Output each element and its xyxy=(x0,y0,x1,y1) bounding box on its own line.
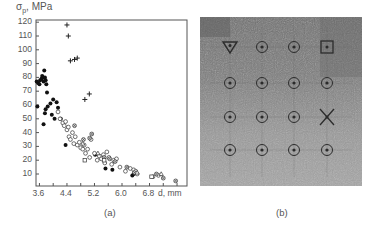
data-point-crossed-circle xyxy=(73,124,77,128)
data-point-open-circle xyxy=(69,138,73,142)
y-tick-label: 110 xyxy=(18,30,32,40)
data-point-open-circle xyxy=(56,110,60,114)
data-point-crossed-circle xyxy=(108,157,112,161)
y-tick-label: 70 xyxy=(23,85,32,95)
x-tick-label: 6.8 xyxy=(143,188,155,198)
x-tick-label: 4.4 xyxy=(60,188,72,198)
data-point-open-circle xyxy=(105,150,109,154)
data-point-filled-circle xyxy=(44,82,48,86)
data-point-square xyxy=(83,158,87,162)
data-point-filled-circle xyxy=(51,97,55,101)
data-point-crossed-circle xyxy=(125,165,129,169)
x-tick-label: 5.2 xyxy=(87,188,99,198)
data-point-cross xyxy=(82,97,87,102)
data-point-crossed-circle xyxy=(90,132,94,136)
y-tick-label: 50 xyxy=(23,113,32,123)
x-tick-label: 3.6 xyxy=(32,188,44,198)
data-point-filled-circle xyxy=(56,106,60,110)
figure: σp, MPa 102030405060708090100110120 3.64… xyxy=(0,0,380,226)
data-point-open-circle xyxy=(77,140,81,144)
x-tick-label: 6.0 xyxy=(115,188,127,198)
data-points xyxy=(35,22,178,182)
data-point-open-circle xyxy=(71,131,75,135)
data-point-open-circle xyxy=(84,151,88,155)
y-tick-label: 10 xyxy=(23,168,32,178)
data-point-filled-circle xyxy=(48,102,52,106)
specimen-photo xyxy=(200,17,362,186)
data-point-open-circle xyxy=(62,124,66,128)
data-point-filled-circle xyxy=(42,69,46,73)
plot-frame xyxy=(36,20,187,186)
data-point-filled-circle xyxy=(103,166,107,170)
data-point-crossed-circle xyxy=(155,172,159,176)
data-point-crossed-circle xyxy=(82,138,86,142)
data-point-open-circle xyxy=(124,169,128,173)
y-tick-label: 90 xyxy=(23,58,32,68)
y-tick-label: 30 xyxy=(23,140,32,150)
data-point-square xyxy=(150,175,154,179)
data-point-open-circle xyxy=(81,147,85,151)
data-point-open-circle xyxy=(64,120,68,124)
data-point-open-circle xyxy=(66,125,70,129)
data-point-crossed-circle xyxy=(174,179,178,183)
y-tick-label: 60 xyxy=(23,99,32,109)
y-tick-label: 40 xyxy=(23,127,32,137)
data-point-open-circle xyxy=(88,156,92,160)
data-point-open-circle xyxy=(58,117,62,121)
panel-a-label: (a) xyxy=(104,207,116,218)
data-point-filled-circle xyxy=(42,122,46,126)
x-axis-label: d, mm xyxy=(158,188,182,198)
data-point-filled-circle xyxy=(35,104,39,108)
data-point-filled-circle xyxy=(44,78,48,82)
y-tick-label: 100 xyxy=(18,44,32,54)
y-tick-label: 20 xyxy=(23,154,32,164)
data-point-filled-circle xyxy=(45,91,49,95)
data-point-cross xyxy=(87,91,92,96)
data-point-open-circle xyxy=(118,165,122,169)
data-point-filled-circle xyxy=(64,143,68,147)
y-tick-label: 120 xyxy=(18,16,32,26)
data-point-filled-circle xyxy=(53,117,57,121)
data-point-open-circle xyxy=(110,162,114,166)
data-point-filled-circle xyxy=(50,113,54,117)
data-point-filled-circle xyxy=(55,100,59,104)
data-point-filled-circle xyxy=(37,82,41,86)
data-point-crossed-circle xyxy=(161,176,165,180)
data-point-open-circle xyxy=(86,147,90,151)
panel-b-label: (b) xyxy=(276,207,288,218)
data-point-open-circle xyxy=(73,135,77,139)
data-point-square xyxy=(102,158,106,162)
data-point-filled-circle xyxy=(43,111,47,115)
data-point-cross xyxy=(66,34,71,39)
data-point-open-circle xyxy=(95,158,99,162)
y-tick-label: 80 xyxy=(23,71,32,81)
data-point-crossed-circle xyxy=(113,160,117,164)
data-point-crossed-circle xyxy=(88,136,92,140)
data-point-cross xyxy=(64,22,69,27)
data-point-filled-circle xyxy=(110,168,114,172)
